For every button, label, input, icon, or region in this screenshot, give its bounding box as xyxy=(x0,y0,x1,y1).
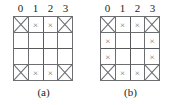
grid-cell xyxy=(14,49,29,65)
grid-cell xyxy=(58,65,73,81)
grid-cell xyxy=(145,17,160,33)
column-header-2: 2 xyxy=(130,1,145,15)
small-x-mark-icon: × xyxy=(33,20,38,29)
grid-cell xyxy=(101,65,116,81)
figure-container: 0 1 2 3 ×××× (a) 0 1 2 3 ×××××××× (b) xyxy=(0,0,174,105)
grid-cell: × xyxy=(116,17,131,33)
grid-cell xyxy=(101,17,116,33)
big-x-mark-icon xyxy=(101,17,115,32)
grid-cell xyxy=(44,49,59,65)
caption-a: (a) xyxy=(0,84,87,100)
grid-cell: × xyxy=(101,49,116,65)
grid-cell: × xyxy=(145,33,160,49)
grid-cell xyxy=(29,33,44,49)
small-x-mark-icon: × xyxy=(105,36,110,45)
grid-cell xyxy=(58,49,73,65)
grid-cell: × xyxy=(44,17,59,33)
big-x-mark-icon xyxy=(145,17,159,32)
panel-b: 0 1 2 3 ×××××××× (b) xyxy=(87,0,174,105)
small-x-mark-icon: × xyxy=(150,52,155,61)
small-x-mark-icon: × xyxy=(33,68,38,77)
grid-cell: × xyxy=(44,65,59,81)
grid-cell xyxy=(58,33,73,49)
grid-cell: × xyxy=(131,17,146,33)
small-x-mark-icon: × xyxy=(135,68,140,77)
small-x-mark-icon: × xyxy=(105,52,110,61)
column-header-0: 0 xyxy=(13,1,28,15)
small-x-mark-icon: × xyxy=(150,36,155,45)
small-x-mark-icon: × xyxy=(120,68,125,77)
column-header-2: 2 xyxy=(43,1,58,15)
big-x-mark-icon xyxy=(14,17,28,32)
grid-cell: × xyxy=(116,65,131,81)
column-header-row-b: 0 1 2 3 xyxy=(100,1,160,15)
small-x-mark-icon: × xyxy=(48,68,53,77)
column-header-0: 0 xyxy=(100,1,115,15)
grid-cell: × xyxy=(29,65,44,81)
grid-cell: × xyxy=(29,17,44,33)
column-header-row-a: 0 1 2 3 xyxy=(13,1,73,15)
grid-cell: × xyxy=(131,65,146,81)
column-header-3: 3 xyxy=(145,1,160,15)
grid-cell xyxy=(14,17,29,33)
grid-cell: × xyxy=(101,33,116,49)
big-x-mark-icon xyxy=(58,65,72,80)
small-x-mark-icon: × xyxy=(120,20,125,29)
big-x-mark-icon xyxy=(58,17,72,32)
grid-cell xyxy=(116,33,131,49)
panel-a: 0 1 2 3 ×××× (a) xyxy=(0,0,87,105)
grid-cell xyxy=(145,65,160,81)
grid-cell xyxy=(44,33,59,49)
big-x-mark-icon xyxy=(101,65,115,80)
grid-cell xyxy=(131,33,146,49)
big-x-mark-icon xyxy=(145,65,159,80)
grid-a: ×××× xyxy=(13,16,73,81)
column-header-1: 1 xyxy=(115,1,130,15)
small-x-mark-icon: × xyxy=(135,20,140,29)
grid-cell xyxy=(116,49,131,65)
column-header-1: 1 xyxy=(28,1,43,15)
big-x-mark-icon xyxy=(14,65,28,80)
caption-b: (b) xyxy=(87,84,174,100)
column-header-3: 3 xyxy=(58,1,73,15)
grid-cell xyxy=(58,17,73,33)
grid-cell xyxy=(14,33,29,49)
grid-b: ×××××××× xyxy=(100,16,160,81)
grid-cell xyxy=(29,49,44,65)
grid-cell xyxy=(131,49,146,65)
grid-cell xyxy=(14,65,29,81)
small-x-mark-icon: × xyxy=(48,20,53,29)
grid-cell: × xyxy=(145,49,160,65)
